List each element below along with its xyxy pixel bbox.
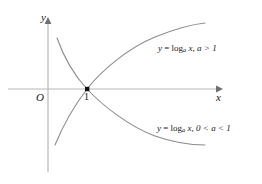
log-function-figure: y x O 1 y = loga x, a > 1 y = loga x, 0 … (0, 0, 262, 184)
equation-decreasing-lhs: y (157, 123, 161, 133)
equation-decreasing-base: a (182, 126, 185, 133)
equation-increasing-comma: , (193, 43, 195, 53)
equation-increasing-equals: = log (164, 43, 183, 53)
equation-increasing-condition: a > 1 (197, 43, 217, 53)
equation-label-decreasing: y = loga x, 0 < a < 1 (157, 124, 231, 134)
equation-decreasing-equals: = log (163, 123, 182, 133)
equation-increasing-base: a (183, 46, 186, 53)
equation-decreasing-comma: , (192, 123, 194, 133)
equation-decreasing-condition: 0 < a < 1 (196, 123, 231, 133)
x-tick-label-one: 1 (84, 92, 89, 102)
origin-label: O (36, 92, 44, 103)
equation-label-increasing: y = loga x, a > 1 (158, 44, 217, 54)
equation-increasing-lhs: y (158, 43, 162, 53)
y-axis-label: y (41, 12, 46, 23)
x-axis-label: x (216, 92, 221, 103)
